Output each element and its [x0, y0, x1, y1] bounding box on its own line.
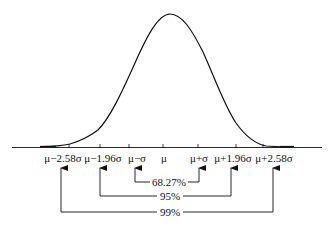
- label-mu-minus-1-96-sigma: μ−1.96σ: [84, 152, 121, 164]
- bell-curve: [40, 14, 294, 147]
- normal-distribution-diagram: μ−2.58σ μ−1.96σ μ−σ μ μ+σ μ+1.96σ μ+2.58…: [0, 0, 330, 228]
- label-mu: μ: [161, 152, 167, 164]
- label-mu-plus-sigma: μ+σ: [190, 152, 208, 164]
- label-mu-minus-2-58-sigma: μ−2.58σ: [44, 152, 81, 164]
- label-mu-plus-1-96-sigma: μ+1.96σ: [214, 152, 251, 164]
- interval-68-label: 68.27%: [152, 176, 186, 188]
- label-mu-plus-2-58-sigma: μ+2.58σ: [255, 152, 292, 164]
- interval-95-label: 95%: [160, 190, 180, 202]
- interval-99-label: 99%: [160, 206, 180, 218]
- axis-labels: μ−2.58σ μ−1.96σ μ−σ μ μ+σ μ+1.96σ μ+2.58…: [44, 152, 292, 164]
- label-mu-minus-sigma: μ−σ: [128, 152, 146, 164]
